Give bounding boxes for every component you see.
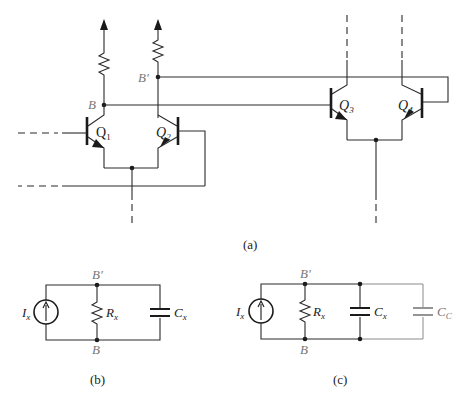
current-source-icon <box>249 299 273 323</box>
q2-collector-branch <box>153 19 163 118</box>
capacitor-icon <box>148 308 172 318</box>
resistor-icon <box>99 30 109 105</box>
caption-c: (c) <box>333 372 347 387</box>
label-cc: CC <box>437 304 453 321</box>
resistor-icon <box>92 285 102 340</box>
supply-arrow-icon <box>154 19 162 30</box>
junction-dot <box>358 282 363 287</box>
label-rx: Rx <box>105 305 118 322</box>
caption-a: (a) <box>243 237 257 252</box>
panel-b: B′ B Ix Rx Cx (b) <box>21 267 187 387</box>
capacitor-cc-icon <box>411 307 435 317</box>
transistor-q2: Q2 <box>156 115 205 186</box>
label-q3: Q3 <box>339 98 354 115</box>
label-ix: Ix <box>235 304 244 321</box>
label-b: B <box>92 342 100 357</box>
label-cx: Cx <box>374 304 387 321</box>
panel-c: B′ B Ix Rx Cx CC (c) <box>235 266 453 387</box>
label-q4: Q4 <box>398 98 413 115</box>
caption-b: (b) <box>90 372 105 387</box>
junction-dot <box>358 337 363 342</box>
label-cx: Cx <box>174 305 187 322</box>
label-b-prime: B′ <box>92 267 103 282</box>
current-source-icon <box>34 300 58 324</box>
panel-a: B B′ Q1 Q2 <box>18 15 448 252</box>
label-b: B <box>88 97 96 112</box>
resistor-icon <box>300 284 310 339</box>
label-q2: Q2 <box>156 125 171 142</box>
label-rx: Rx <box>312 304 325 321</box>
label-q1: Q1 <box>96 125 111 142</box>
transistor-q1: Q1 <box>18 105 111 168</box>
label-b: B <box>300 342 308 357</box>
label-b-prime: B′ <box>138 70 149 85</box>
supply-arrow-icon <box>100 19 108 30</box>
q1-collector-branch <box>99 19 109 105</box>
capacitor-icon <box>348 307 372 317</box>
label-ix: Ix <box>21 305 30 322</box>
label-b-prime: B′ <box>300 266 311 281</box>
circuit-figure: B B′ Q1 Q2 <box>0 0 470 400</box>
